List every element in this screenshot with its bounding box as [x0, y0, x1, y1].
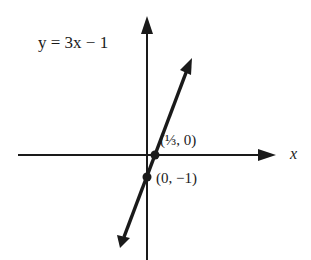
x-axis-arrow-icon — [258, 149, 276, 161]
x-axis-label: x — [290, 145, 297, 163]
y-intercept-point — [143, 173, 152, 182]
equation-label: y = 3x − 1 — [38, 33, 108, 53]
x-intercept-label: (⅓, 0) — [160, 132, 196, 149]
line-arrow-down-icon — [117, 235, 130, 248]
y-intercept-label: (0, −1) — [156, 170, 197, 187]
y-axis-arrow-icon — [141, 16, 153, 34]
y-axis — [141, 16, 153, 260]
graph-diagram: y = 3x − 1 x (⅓, 0) (0, −1) — [0, 0, 311, 260]
x-intercept-point — [151, 151, 160, 160]
line-arrow-up-icon — [180, 58, 192, 75]
